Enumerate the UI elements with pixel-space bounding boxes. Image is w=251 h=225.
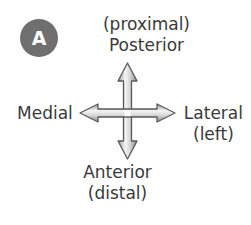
axis-label-left: Medial — [17, 103, 73, 124]
axis-label-up-primary: Posterior — [42, 35, 251, 56]
axis-label-right-primary: Lateral — [184, 103, 243, 124]
axis-label-down-primary: Anterior — [0, 162, 235, 183]
axis-label-left-primary: Medial — [17, 103, 73, 124]
orientation-key-figure: A (proximal) Posterior Medial Lateral (l… — [0, 0, 251, 225]
axis-label-up: (proximal) Posterior — [0, 14, 251, 56]
axis-label-down-secondary: (distal) — [0, 183, 235, 204]
axis-label-right: Lateral (left) — [184, 103, 243, 145]
axis-label-right-secondary: (left) — [184, 124, 243, 145]
arrow-center-highlight — [125, 110, 131, 116]
axis-label-up-secondary: (proximal) — [42, 14, 251, 35]
four-way-arrow-cross-icon — [79, 61, 176, 161]
axis-label-down: Anterior (distal) — [0, 162, 251, 204]
